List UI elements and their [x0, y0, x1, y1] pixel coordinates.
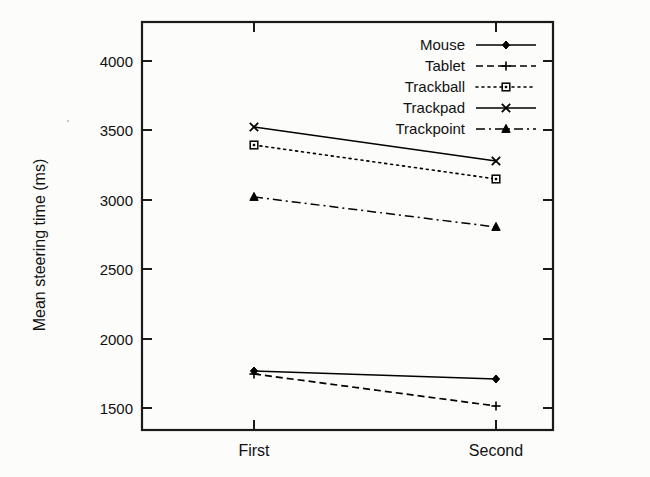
y-axis-title: Mean steering time (ms) [31, 159, 48, 332]
data-point-tablet-second [491, 401, 500, 410]
legend-marker-tablet [501, 61, 510, 70]
y-axis-tick-labels: 4000 3500 3000 2500 2000 1500 [100, 53, 133, 417]
legend-entry-mouse: Mouse [420, 36, 536, 53]
legend-entry-tablet: Tablet [425, 57, 536, 74]
legend-entry-trackball: Trackball [405, 78, 536, 95]
legend-label-trackpad: Trackpad [403, 99, 465, 116]
y-axis-title-text: Mean steering time (ms) [31, 159, 48, 332]
series-trackpoint [250, 192, 500, 230]
legend: Mouse Tablet Trackball Trackpad [396, 36, 536, 137]
legend-label-tablet: Tablet [425, 57, 466, 74]
plot-frame [142, 22, 553, 430]
data-point-mouse-second [492, 375, 499, 383]
y-tick-label: 2000 [100, 331, 133, 348]
x-tick-label-second: Second [469, 442, 523, 459]
series-trackball [250, 141, 500, 183]
legend-entry-trackpad: Trackpad [403, 99, 536, 116]
y-axis-ticks [142, 61, 553, 408]
data-point-trackpoint-second [492, 222, 500, 230]
x-tick-label-first: First [238, 442, 270, 459]
y-tick-label: 3000 [100, 192, 133, 209]
legend-entry-trackpoint: Trackpoint [396, 120, 536, 137]
data-point-trackball-first [250, 141, 258, 149]
chart-page: 4000 3500 3000 2500 2000 1500 Mean steer… [0, 0, 650, 477]
legend-label-mouse: Mouse [420, 36, 465, 53]
y-tick-label: 4000 [100, 53, 133, 70]
data-point-trackball-second [492, 175, 500, 183]
y-tick-label: 1500 [100, 400, 133, 417]
y-tick-label: 3500 [100, 122, 133, 139]
legend-label-trackpoint: Trackpoint [396, 120, 466, 137]
steering-time-line-chart: 4000 3500 3000 2500 2000 1500 Mean steer… [0, 0, 650, 477]
data-point-trackpoint-first [250, 192, 258, 200]
legend-label-trackball: Trackball [405, 78, 465, 95]
scan-speck [67, 120, 69, 122]
x-axis-tick-labels: First Second [238, 442, 523, 459]
legend-marker-trackball [502, 83, 510, 91]
series-mouse [250, 367, 499, 383]
legend-marker-mouse [502, 41, 509, 49]
y-tick-label: 2500 [100, 261, 133, 278]
